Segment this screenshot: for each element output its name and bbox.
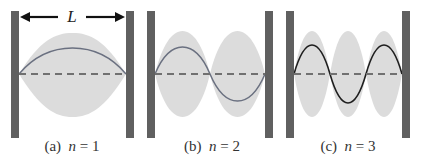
caption-panel-a: (a) n = 1 [44, 138, 99, 155]
left-wall [286, 11, 294, 138]
panel-a [11, 11, 134, 138]
standing-wave-diagram [0, 0, 425, 161]
caption-n-value: 1 [92, 138, 100, 154]
length-label: L [67, 7, 76, 27]
caption-letter: (b) [184, 138, 202, 154]
caption-equals: = [220, 138, 228, 154]
panel-c [286, 11, 410, 138]
caption-letter: (c) [320, 138, 337, 154]
right-wall [265, 11, 273, 138]
caption-letter: (a) [44, 138, 61, 154]
caption-n-symbol: n [209, 138, 217, 154]
panel-b [147, 11, 273, 138]
left-wall [11, 11, 19, 138]
caption-n-value: 2 [232, 138, 240, 154]
caption-panel-b: (b) n = 2 [184, 138, 240, 155]
right-wall [402, 11, 410, 138]
caption-n-value: 3 [368, 138, 376, 154]
left-wall [147, 11, 155, 138]
caption-n-symbol: n [345, 138, 353, 154]
caption-n-symbol: n [69, 138, 77, 154]
arrowhead-right-icon [115, 12, 125, 22]
caption-equals: = [80, 138, 88, 154]
caption-panel-c: (c) n = 3 [320, 138, 375, 155]
caption-equals: = [356, 138, 364, 154]
arrowhead-left-icon [20, 12, 30, 22]
right-wall [126, 11, 134, 138]
